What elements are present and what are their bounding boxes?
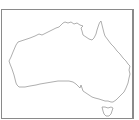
australia-map	[0, 0, 139, 120]
australia-mainland-outline	[9, 21, 130, 102]
tasmania-outline	[102, 107, 113, 116]
